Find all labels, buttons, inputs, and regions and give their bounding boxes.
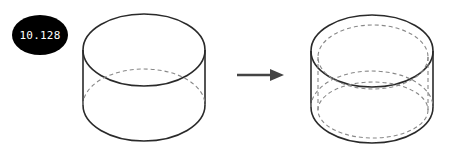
diagram-canvas: 10.128 [0,0,451,152]
diagram-svg [0,0,451,152]
top-rim-ellipse [83,14,205,86]
bottom-front-arc [83,105,205,141]
outer-bottom-front-arc [311,107,433,143]
right-arrow-icon [237,69,284,81]
result-cylinder [311,15,433,143]
bottom-hidden-arc [83,69,205,105]
inner-bottom-dashed-ellipse [318,82,428,138]
original-cylinder [83,14,205,141]
